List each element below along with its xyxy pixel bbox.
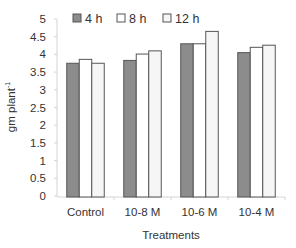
legend-item: 8 h	[117, 12, 146, 26]
bar-8h	[79, 59, 92, 197]
y-tick-label: 0	[40, 190, 46, 202]
y-axis-title-main: gm plant	[5, 87, 17, 132]
y-tick-label: 1	[40, 155, 46, 167]
x-axis-title: Treatments	[142, 229, 200, 241]
y-tick-label: 2	[40, 119, 46, 131]
bar-group	[67, 59, 105, 197]
legend-label: 12 h	[175, 12, 199, 26]
bar-chart: 00.511.522.533.544.55 Control10-8 M10-6 …	[0, 0, 296, 248]
bar-12h	[206, 31, 219, 197]
bar-8h	[136, 54, 149, 197]
y-tick-label: 5	[40, 13, 46, 25]
y-tick-label: 2.5	[30, 102, 46, 114]
y-tick-label: 3	[40, 84, 46, 96]
y-tick-label: 1.5	[30, 137, 46, 149]
bar-12h	[149, 51, 162, 197]
bar-8h	[193, 44, 206, 197]
bar-group	[238, 45, 276, 197]
legend-item: 4 h	[73, 12, 102, 26]
y-axis-title-superscript: -1	[4, 82, 11, 88]
x-category-label: 10-6 M	[182, 206, 218, 218]
bar-group	[124, 51, 162, 197]
y-tick-label: 4.5	[30, 31, 46, 43]
legend-item: 12 h	[163, 12, 199, 26]
legend-label: 8 h	[129, 12, 146, 26]
bar-4h	[67, 63, 80, 197]
y-tick-label: 4	[40, 48, 47, 60]
bar-group	[181, 31, 219, 197]
x-category-label: 10-8 M	[125, 206, 161, 218]
x-category-label: 10-4 M	[239, 206, 275, 218]
x-axis: Control10-8 M10-6 M10-4 M	[57, 197, 285, 218]
y-tick-label: 0.5	[30, 172, 46, 184]
bar-12h	[263, 45, 276, 197]
y-tick-label: 3.5	[30, 66, 46, 78]
bar-4h	[181, 44, 194, 197]
bar-8h	[250, 47, 263, 197]
bar-12h	[92, 63, 105, 197]
legend-swatch	[73, 14, 81, 22]
bar-series-group	[67, 31, 276, 197]
y-axis-title: gm plant-1	[4, 82, 17, 132]
legend: 4 h8 h12 h	[73, 12, 199, 26]
x-category-label: Control	[67, 206, 104, 218]
legend-swatch	[117, 14, 125, 22]
bar-4h	[124, 60, 137, 197]
legend-label: 4 h	[85, 12, 102, 26]
y-axis: 00.511.522.533.544.55	[30, 13, 57, 202]
legend-swatch	[163, 14, 171, 22]
bar-4h	[238, 53, 251, 197]
